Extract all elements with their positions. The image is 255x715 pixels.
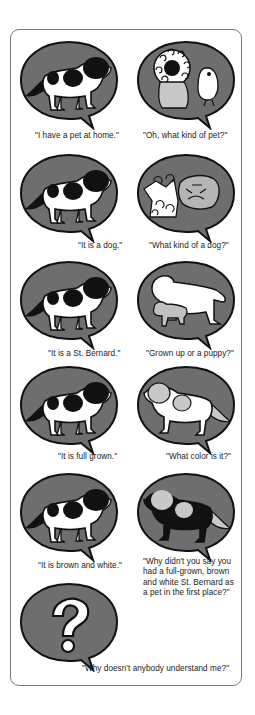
gray-patched-dog-icon	[135, 363, 237, 455]
black-dog-light-patches-icon	[135, 470, 237, 562]
lion-and-owl-icon	[135, 38, 237, 130]
panel-8	[135, 363, 247, 455]
panel-10	[135, 470, 247, 562]
panel-2	[135, 38, 247, 130]
caption-5: "It is a St. Bernard."	[48, 349, 120, 358]
panel-11	[18, 580, 130, 672]
st-bernard-dog-icon	[18, 38, 120, 130]
caption-1: "I have a pet at home."	[35, 131, 119, 140]
caption-11: "Why doesn't anybody understand me?"	[82, 664, 229, 673]
caption-4: "What kind of a dog?"	[149, 241, 229, 250]
caption-3: "It is a dog."	[78, 241, 122, 250]
caption-6: "Grown up or a puppy?"	[146, 349, 234, 358]
panel-5	[18, 258, 130, 350]
st-bernard-dog-icon	[18, 151, 120, 243]
st-bernard-dog-icon	[18, 258, 120, 350]
panel-6	[135, 258, 247, 350]
st-bernard-dog-icon	[18, 470, 120, 562]
panel-9	[18, 470, 130, 562]
panel-1	[18, 38, 130, 130]
caption-8: "What color is it?"	[166, 452, 231, 461]
caption-2: "Oh, what kind of pet?"	[143, 131, 227, 140]
caption-9: "It is brown and white."	[38, 561, 122, 570]
caption-10: "Why didn't you say you had a full-grown…	[143, 557, 239, 599]
big-dog-and-puppy-icon	[135, 258, 237, 350]
st-bernard-dog-icon	[18, 363, 120, 455]
panel-4	[135, 151, 247, 243]
panel-7	[18, 363, 130, 455]
poodle-and-bulldog-icon	[135, 151, 237, 243]
panel-3	[18, 151, 130, 243]
question-mark-icon	[18, 580, 120, 672]
caption-7: "It is full grown."	[58, 452, 117, 461]
